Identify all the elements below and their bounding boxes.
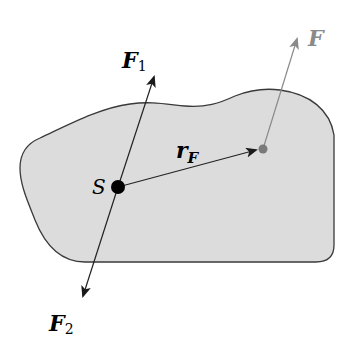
point-of-application-F (259, 145, 268, 154)
label-S: S (92, 175, 106, 199)
label-F1: F1 (121, 47, 147, 74)
label-F2: F2 (48, 310, 74, 337)
point-S (111, 180, 125, 194)
label-F: F (307, 25, 325, 51)
force-diagram: F1 F2 F rF S (0, 0, 354, 348)
rigid-body (20, 89, 334, 262)
